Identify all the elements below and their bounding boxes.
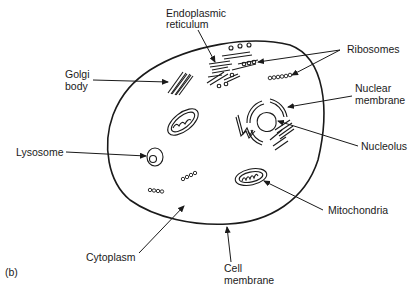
ribosome-chain-lower-left [148,188,163,193]
leader-cell-membrane [227,227,231,262]
label-endoplasmic-reticulum: Endoplasmic reticulum [166,7,229,30]
leader-nucleolus [278,121,358,146]
golgi-body-shape [168,72,193,95]
cell-diagram: Endoplasmic reticulum Ribosomes Golgi bo… [0,0,415,297]
leader-golgi [93,80,168,82]
leader-lysosome [66,152,146,156]
leader-lines [66,30,358,262]
lysosome-shape [147,148,163,166]
label-ribosomes: Ribosomes [347,43,400,55]
er-folds-near-nucleus [236,115,294,150]
label-nuclear-membrane: Nuclear membrane [355,82,405,106]
ribosome-chain-upper-right [268,73,292,80]
label-cytoplasm: Cytoplasm [86,251,136,263]
endoplasmic-reticulum-shape [207,43,258,88]
label-cell-membrane: Cell membrane [224,262,274,286]
leader-nuclear-membrane [288,96,352,107]
leader-cytoplasm [139,206,184,253]
panel-label: (b) [5,266,18,278]
cell-membrane-outline [108,41,324,224]
nucleolus-shape [257,113,276,132]
ribosome-chain-center [181,171,196,180]
mitochondrion-upper [163,104,202,140]
label-mitochondria: Mitochondria [328,204,388,216]
mitochondrion-lower [234,166,269,188]
label-lysosome: Lysosome [16,146,64,158]
label-golgi-body: Golgi body [65,68,92,92]
leader-mitochondria [264,181,323,210]
label-nucleolus: Nucleolus [361,140,407,152]
